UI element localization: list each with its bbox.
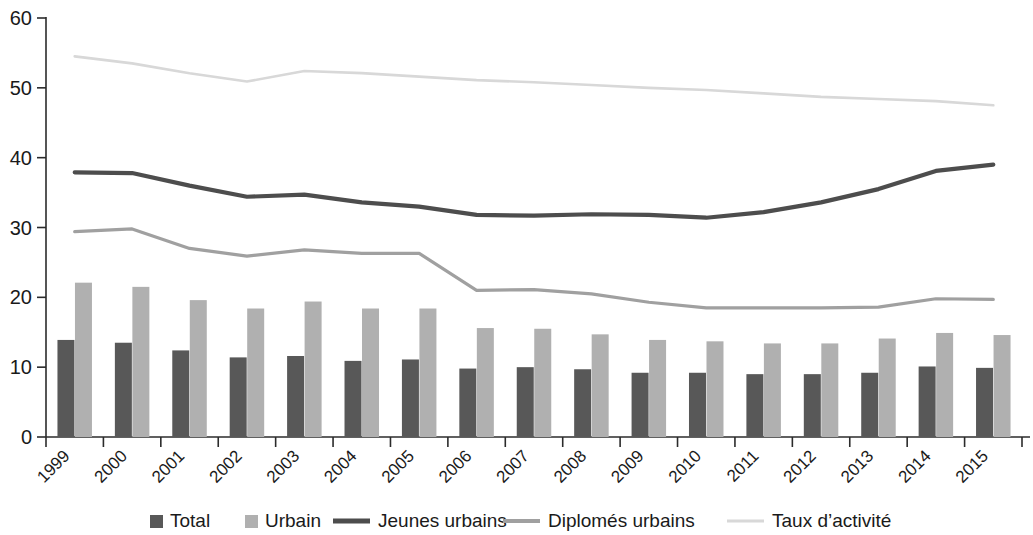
bar-total-2010: [689, 373, 706, 437]
bar-total-2002: [230, 357, 247, 437]
bar-urbain-2006: [477, 328, 494, 437]
x-axis-tick-label: 2015: [952, 446, 992, 486]
bar-total-2014: [919, 366, 936, 437]
bar-total-2013: [861, 373, 878, 437]
x-axis-tick-label: 2006: [435, 446, 475, 486]
x-axis-tick-label: 2011: [723, 446, 762, 485]
line-series-group: [75, 56, 994, 307]
legend-label-diplomés-urbains: Diplomés urbains: [548, 510, 695, 531]
bar-total-2006: [459, 369, 476, 437]
bar-total-2001: [172, 350, 189, 437]
bar-urbain-2013: [879, 339, 896, 437]
bar-urbain-1999: [75, 283, 92, 437]
bar-urbain-2005: [419, 309, 436, 437]
x-axis-tick-label: 2002: [206, 446, 246, 486]
bar-urbain-2007: [534, 329, 551, 437]
legend-label-jeunes-urbains: Jeunes urbains: [378, 510, 507, 531]
y-axis-tick-label: 50: [10, 77, 32, 99]
y-axis: 0102030405060: [10, 7, 46, 448]
grouped-bar-line-chart: 0102030405060 19992000200120022003200420…: [0, 0, 1033, 535]
legend-swatch-urbain: [245, 515, 258, 528]
x-axis-tick-label: 2001: [148, 446, 188, 486]
bar-total-2005: [402, 359, 419, 437]
bar-total-2003: [287, 356, 304, 437]
x-axis-tick-label: 2000: [91, 446, 131, 486]
bar-total-2004: [345, 361, 362, 437]
x-axis-tick-label: 2008: [550, 446, 590, 486]
bar-urbain-2004: [362, 309, 379, 437]
chart-legend: TotalUrbainJeunes urbainsDiplomés urbain…: [150, 510, 891, 531]
bar-total-2008: [574, 369, 591, 437]
bar-urbain-2015: [994, 335, 1011, 437]
x-axis-tick-label: 2004: [320, 446, 360, 486]
y-axis-tick-label: 20: [10, 286, 32, 308]
y-axis-tick-label: 0: [21, 426, 32, 448]
x-axis-tick-label: 2014: [895, 446, 935, 486]
bar-total-2015: [976, 368, 993, 437]
y-axis-tick-label: 30: [10, 217, 32, 239]
x-axis-tick-label: 2007: [493, 446, 533, 486]
bar-urbain-2012: [821, 343, 838, 437]
bar-urbain-2001: [190, 300, 207, 437]
legend-label-total: Total: [170, 510, 210, 531]
x-axis-tick-label: 2009: [607, 446, 647, 486]
x-axis-tick-label: 2005: [378, 446, 418, 486]
bar-urbain-2009: [649, 340, 666, 437]
y-axis-tick-label: 10: [10, 356, 32, 378]
bar-urbain-2002: [247, 309, 264, 437]
x-axis-tick-label: 2003: [263, 446, 303, 486]
bar-total-2009: [632, 373, 649, 437]
bar-urbain-2000: [132, 287, 149, 437]
line-taux-d-activité: [75, 56, 994, 105]
y-axis-tick-label: 40: [10, 147, 32, 169]
line-jeunes-urbains: [75, 165, 994, 218]
bar-total-2007: [517, 367, 534, 437]
bar-total-2000: [115, 343, 132, 437]
bar-total-2011: [746, 374, 763, 437]
bar-urbain-2014: [936, 333, 953, 437]
bar-urbain-2010: [706, 341, 723, 437]
chart-container: 0102030405060 19992000200120022003200420…: [0, 0, 1033, 535]
bar-urbain-2008: [592, 334, 609, 437]
bar-total-2012: [804, 374, 821, 437]
y-axis-tick-label: 60: [10, 7, 32, 29]
bar-total-1999: [57, 340, 74, 437]
x-axis: 1999200020012002200320042005200620072008…: [33, 437, 1030, 487]
x-axis-tick-label: 2013: [837, 446, 877, 486]
x-axis-tick-label: 1999: [33, 446, 73, 486]
legend-label-taux-d-activité: Taux d’activité: [772, 510, 891, 531]
x-axis-tick-label: 2012: [780, 446, 820, 486]
bar-urbain-2003: [305, 302, 322, 437]
bar-urbain-2011: [764, 343, 781, 437]
legend-swatch-total: [150, 515, 163, 528]
line-diplomés-urbains: [75, 229, 994, 308]
x-axis-tick-label: 2010: [665, 446, 705, 486]
legend-label-urbain: Urbain: [265, 510, 321, 531]
